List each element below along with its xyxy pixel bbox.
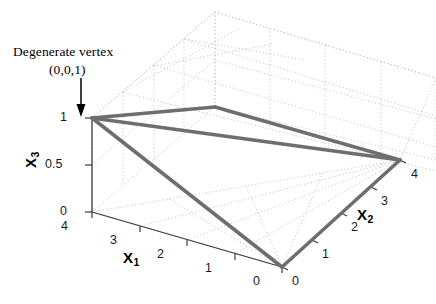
tick-label-x1-3: 3: [110, 233, 117, 247]
axis-title-x3-subscript: 3: [29, 152, 41, 158]
axis-x1-line: [92, 212, 282, 267]
annotation-arrow: [77, 78, 86, 117]
tick-label-x2-3: 3: [381, 194, 388, 208]
tick-label-x1-1: 1: [205, 261, 212, 275]
tick-label-x2-1: 1: [322, 247, 329, 261]
tick-label-x3-0: 0: [60, 204, 67, 218]
grid-dotted-group: [92, 12, 436, 267]
axis-title-x2: X2: [357, 206, 373, 223]
grid-top-line-c: [184, 39, 436, 116]
tick-label-x2-4: 4: [411, 167, 418, 181]
edge-apex-to-right: [215, 107, 400, 160]
tick-label-x3-1: 1: [60, 110, 67, 124]
axis-title-x2-subscript: 2: [368, 213, 374, 225]
tick-label-x1-2: 2: [157, 247, 164, 261]
grid-floor-line-h: [282, 173, 323, 267]
grid-floor-line-d: [234, 160, 400, 254]
grid-top-line-b: [153, 65, 436, 147]
annotation-label-line1: Degenerate vertex: [13, 44, 113, 60]
edge-origin-to-right: [282, 160, 400, 267]
tick-label-x1-0: 0: [253, 274, 260, 288]
axis-title-x3-letter: X: [22, 158, 39, 168]
grid-floor-line-c: [187, 160, 400, 240]
axis-title-x3: X3: [22, 152, 39, 168]
grid-floor-line-f: [169, 199, 282, 267]
annotation-label-line2: (0,0,1): [49, 62, 86, 78]
axis-title-x1-subscript: 1: [134, 256, 140, 268]
grid-top-line-e: [154, 44, 272, 66]
figure-3d-degenerate-vertex: Degenerate vertex (0,0,1) 1 0.5 0 4 3 2 …: [0, 0, 436, 304]
tick-label-x2-0: 0: [292, 274, 299, 288]
grid-top-face: [92, 12, 436, 160]
grid-top-line-d: [123, 28, 240, 92]
tick-label-x1-4: 4: [61, 219, 68, 233]
grid-top-line-f: [185, 39, 305, 60]
axis-title-x1-letter: X: [123, 249, 133, 266]
tick-label-x3-05: 0.5: [45, 157, 62, 171]
axis-title-x2-letter: X: [357, 206, 367, 223]
axis-title-x1: X1: [123, 249, 139, 266]
